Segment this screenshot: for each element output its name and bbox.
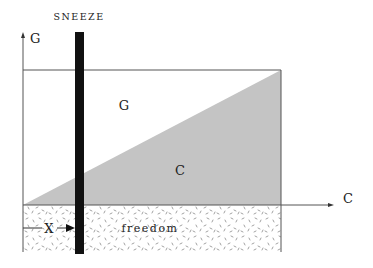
region-lower-label: C <box>175 163 185 178</box>
y-axis-label: G <box>30 31 40 46</box>
shaded-triangle <box>23 70 281 205</box>
marker-label: X <box>44 221 54 236</box>
diagram-title: SNEEZE <box>53 11 104 22</box>
x-axis-label: C <box>343 191 353 206</box>
diagram-canvas: SNEEZE G C G C freedom X <box>0 0 373 268</box>
sneeze-bar <box>75 32 84 254</box>
y-axis-arrow-icon <box>21 32 25 38</box>
floor-label: freedom <box>122 222 179 235</box>
region-upper-label: G <box>119 98 129 113</box>
x-axis-arrow-icon <box>328 203 334 207</box>
